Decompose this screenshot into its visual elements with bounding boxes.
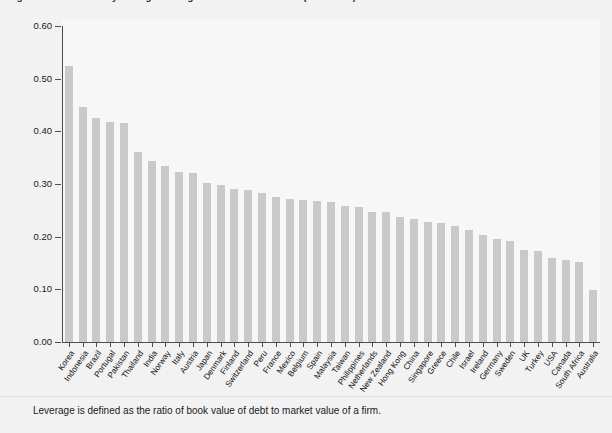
bar: [65, 66, 73, 342]
bar: [217, 185, 225, 342]
x-tick-mark: [372, 342, 373, 347]
bar: [410, 219, 418, 342]
bar: [382, 212, 390, 342]
x-tick-mark: [455, 342, 456, 347]
y-tick-mark: [55, 26, 61, 27]
y-tick-label: 0.60: [34, 20, 53, 31]
x-tick-mark: [96, 342, 97, 347]
x-tick-mark: [262, 342, 263, 347]
bar: [230, 189, 238, 342]
x-tick-mark: [69, 342, 70, 347]
x-tick-mark: [193, 342, 194, 347]
bar-series: [62, 26, 600, 342]
x-tick-mark: [469, 342, 470, 347]
chart-title: Figure 1. Cross-country average leverage…: [8, 0, 356, 2]
bar: [313, 201, 321, 342]
x-tick-mark: [179, 342, 180, 347]
bar: [589, 290, 597, 342]
footnote-text: Leverage is defined as the ratio of book…: [33, 405, 381, 416]
x-tick-mark: [538, 342, 539, 347]
bar: [506, 241, 514, 342]
x-tick-mark: [414, 342, 415, 347]
y-tick-label: 0.10: [34, 283, 53, 294]
y-tick-mark: [55, 237, 61, 238]
bar: [148, 161, 156, 342]
bar: [106, 122, 114, 342]
x-tick-mark: [248, 342, 249, 347]
bar: [562, 260, 570, 342]
bar: [244, 190, 252, 342]
x-tick-mark: [386, 342, 387, 347]
x-tick-mark: [124, 342, 125, 347]
bar: [286, 199, 294, 342]
x-tick-mark: [524, 342, 525, 347]
bar: [437, 223, 445, 342]
bar: [272, 197, 280, 342]
y-tick-label: 0.50: [34, 73, 53, 84]
x-tick-mark: [510, 342, 511, 347]
x-tick-mark: [138, 342, 139, 347]
x-tick-mark: [290, 342, 291, 347]
x-tick-mark: [303, 342, 304, 347]
y-tick-label: 0.30: [34, 178, 53, 189]
bar: [548, 258, 556, 342]
bar: [534, 251, 542, 342]
x-tick-mark: [110, 342, 111, 347]
bar: [189, 173, 197, 342]
x-tick-mark: [441, 342, 442, 347]
y-tick-label: 0.40: [34, 125, 53, 136]
x-tick-mark: [83, 342, 84, 347]
x-tick-mark: [359, 342, 360, 347]
bar: [258, 193, 266, 342]
x-tick-mark: [400, 342, 401, 347]
bar: [451, 226, 459, 342]
x-tick-mark: [345, 342, 346, 347]
x-tick-mark: [152, 342, 153, 347]
bar: [203, 183, 211, 342]
bar: [520, 250, 528, 342]
bar: [368, 212, 376, 342]
x-tick-mark: [331, 342, 332, 347]
x-tick-mark: [579, 342, 580, 347]
bar: [396, 217, 404, 342]
y-tick-mark: [55, 289, 61, 290]
bar: [161, 166, 169, 342]
x-tick-mark: [552, 342, 553, 347]
x-tick-mark: [497, 342, 498, 347]
y-tick-label: 0.00: [34, 336, 53, 347]
bar: [479, 235, 487, 342]
x-tick-mark: [234, 342, 235, 347]
y-tick-mark: [55, 131, 61, 132]
x-tick-mark: [165, 342, 166, 347]
bar: [424, 222, 432, 342]
x-tick-mark: [221, 342, 222, 347]
y-tick-label: 0.20: [34, 231, 53, 242]
x-tick-mark: [566, 342, 567, 347]
y-tick-mark: [55, 79, 61, 80]
x-tick-mark: [207, 342, 208, 347]
bar: [355, 207, 363, 342]
x-tick-mark: [483, 342, 484, 347]
footnote-divider: [0, 396, 612, 397]
bar: [92, 118, 100, 342]
bar: [79, 107, 87, 342]
bar: [175, 172, 183, 342]
x-tick-mark: [593, 342, 594, 347]
y-tick-mark: [55, 342, 61, 343]
figure-container: Figure 1. Cross-country average leverage…: [0, 0, 612, 433]
bar: [575, 262, 583, 342]
bar: [299, 200, 307, 342]
x-tick-mark: [276, 342, 277, 347]
bar: [341, 206, 349, 342]
x-tick-mark: [428, 342, 429, 347]
bar: [134, 152, 142, 342]
bar: [327, 202, 335, 342]
y-tick-mark: [55, 184, 61, 185]
bar: [120, 123, 128, 342]
bar: [493, 239, 501, 342]
bar: [465, 230, 473, 342]
x-tick-mark: [317, 342, 318, 347]
